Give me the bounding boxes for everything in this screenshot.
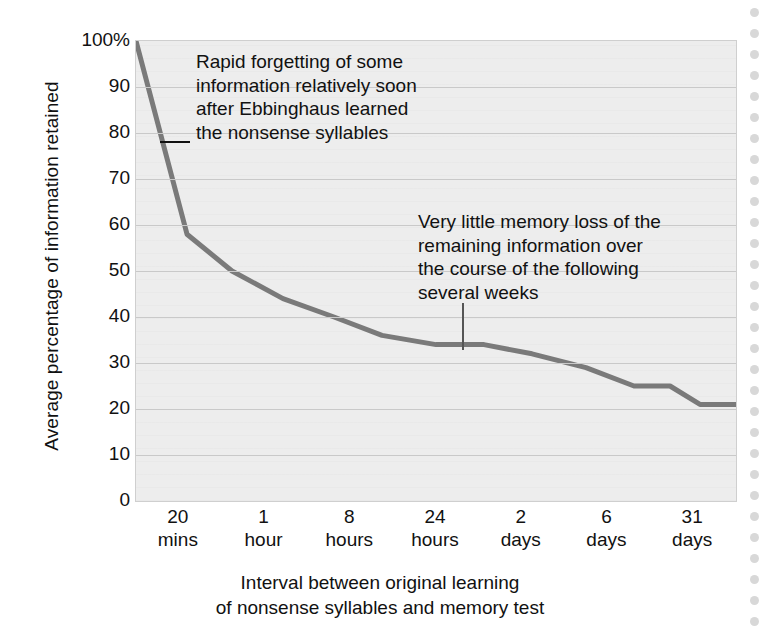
y-tick-label: 70 [62,167,130,189]
border-dot [750,344,759,353]
x-axis-title-line-2: of nonsense syllables and memory test [0,595,760,620]
border-dot [750,428,759,437]
y-tick-label: 10 [62,443,130,465]
y-tick-label: 100% [62,29,130,51]
x-tick-label: 8hours [326,505,374,551]
border-dot [750,512,759,521]
x-tick-label: 24hours [411,505,459,551]
border-dot [750,533,759,542]
border-dot [750,8,759,17]
border-dot [750,386,759,395]
annotation-leader-dash [160,141,190,143]
border-dot [750,323,759,332]
y-tick-label: 0 [62,489,130,511]
border-dot [750,260,759,269]
border-dot [750,617,759,626]
x-axis-tick-labels: 20mins1hour8hours24hours2days6days31days [135,505,735,565]
y-tick-label: 40 [62,305,130,327]
y-tick-label: 60 [62,213,130,235]
x-tick-label: 6days [586,505,626,551]
border-dot [750,470,759,479]
border-dot [750,92,759,101]
border-dot [750,302,759,311]
x-tick-label: 31days [672,505,712,551]
border-dot [750,113,759,122]
annotation-leader-line [462,303,464,350]
border-dot [750,134,759,143]
border-dot [750,29,759,38]
border-dot [750,449,759,458]
border-dot [750,575,759,584]
y-tick-label: 90 [62,75,130,97]
x-axis-title-line-1: Interval between original learning [0,570,760,595]
y-tick-label: 30 [62,351,130,373]
gridline [136,363,736,364]
border-dot [750,239,759,248]
gridline [136,317,736,318]
border-dot [750,554,759,563]
y-axis-tick-labels: 100%9080706050403020100 [58,0,130,634]
x-tick-label: 20mins [158,505,198,551]
border-dot [750,197,759,206]
gridline [136,179,736,180]
y-tick-label: 80 [62,121,130,143]
border-dot [750,491,759,500]
gridline [136,409,736,410]
annotation-rapid-forgetting: Rapid forgetting of some information rel… [196,50,417,144]
gridline [136,455,736,456]
forgetting-curve-figure: Average percentage of information retain… [0,0,780,634]
border-dot [750,281,759,290]
annotation-little-memory-loss: Very little memory loss of the remaining… [418,210,661,304]
border-dot [750,596,759,605]
x-tick-label: 2days [501,505,541,551]
x-axis-title: Interval between original learning of no… [0,570,760,620]
border-dot [750,407,759,416]
y-tick-label: 50 [62,259,130,281]
x-tick-label: 1hour [245,505,283,551]
border-dot [750,155,759,164]
y-tick-label: 20 [62,397,130,419]
border-dot [750,218,759,227]
border-dot [750,176,759,185]
border-dot [750,365,759,374]
border-dot [750,71,759,80]
page-border-dots [750,8,762,628]
border-dot [750,50,759,59]
